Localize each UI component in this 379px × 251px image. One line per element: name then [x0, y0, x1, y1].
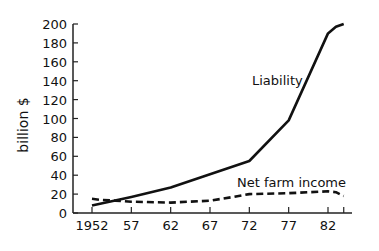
y-tick-label: 120 [42, 93, 67, 108]
x-tick-label: 82 [320, 218, 337, 233]
y-axis-label: billion $ [15, 97, 31, 152]
x-axis-ticks: 1952576267727782 [75, 207, 343, 233]
y-tick-label: 100 [42, 112, 67, 127]
x-tick-label: 77 [280, 218, 297, 233]
x-tick-label: 72 [241, 218, 258, 233]
y-tick-label: 40 [50, 168, 67, 183]
annotation-label: Liability [252, 73, 303, 88]
x-tick-label: 1952 [75, 218, 108, 233]
x-tick-label: 62 [162, 218, 179, 233]
y-tick-label: 0 [59, 206, 67, 221]
annotation-label: Net farm income [237, 175, 346, 190]
y-tick-label: 160 [42, 55, 67, 70]
y-tick-label: 60 [50, 149, 67, 164]
y-tick-label: 200 [42, 17, 67, 32]
chart: 020406080100120140160180200 195257626772… [0, 0, 379, 251]
line-chart: 020406080100120140160180200 195257626772… [0, 0, 379, 251]
y-tick-label: 140 [42, 74, 67, 89]
y-tick-label: 20 [50, 187, 67, 202]
x-tick-label: 57 [123, 218, 140, 233]
annotations: LiabilityNet farm income [237, 73, 346, 190]
x-tick-label: 67 [202, 218, 219, 233]
y-tick-label: 180 [42, 36, 67, 51]
y-tick-label: 80 [50, 130, 67, 145]
